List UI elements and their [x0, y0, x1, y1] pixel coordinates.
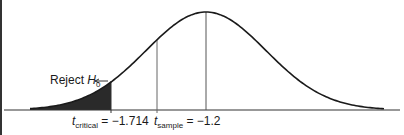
critical-label: tcritical = −1.714 [72, 114, 149, 130]
sample-sub: sample [157, 121, 183, 130]
critical-value: = −1.714 [98, 114, 149, 128]
reject-label: Reject H0 [50, 73, 100, 89]
h-var: H [87, 73, 96, 87]
h-sub: 0 [96, 80, 100, 89]
critical-sub: critical [75, 121, 98, 130]
sample-value: = −1.2 [183, 114, 220, 128]
sample-label: tsample = −1.2 [154, 114, 221, 130]
density-curve [30, 12, 384, 109]
reject-text: Reject [50, 73, 87, 87]
